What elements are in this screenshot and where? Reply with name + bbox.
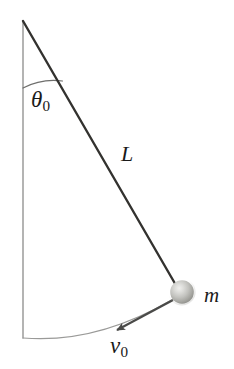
velocity-symbol: v — [110, 333, 120, 358]
velocity-subscript: 0 — [121, 343, 129, 360]
pendulum-figure: θ0 L m v0 — [0, 0, 234, 369]
length-symbol: L — [121, 141, 133, 166]
mass-symbol: m — [204, 283, 219, 307]
pendulum-string — [23, 21, 177, 287]
mass-label-m: m — [204, 285, 219, 306]
angle-label-theta-zero: θ0 — [31, 88, 50, 113]
length-label-L: L — [121, 143, 133, 165]
angle-symbol: θ — [31, 87, 42, 112]
velocity-vector-arrow — [117, 300, 173, 330]
angle-subscript: 0 — [43, 97, 51, 114]
velocity-label-v-zero: v0 — [110, 334, 128, 359]
angle-arc — [23, 80, 63, 88]
swing-arc — [23, 300, 172, 339]
pendulum-bob — [170, 280, 194, 304]
pendulum-diagram-canvas — [0, 0, 234, 369]
